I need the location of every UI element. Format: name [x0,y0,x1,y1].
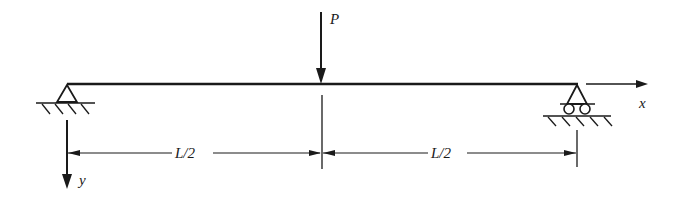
roller-support-icon [543,85,612,126]
beam-diagram: P x y L/2 L/2 [0,0,683,200]
dimension-label-left: L/2 [174,145,196,161]
pin-support-icon [36,85,95,114]
x-axis-label: x [638,95,646,111]
x-axis-arrow-icon [586,80,648,88]
y-axis-arrow-icon [62,120,72,189]
dimension-label-right: L/2 [430,145,452,161]
y-axis-label: y [77,172,86,188]
load-label: P [329,11,339,27]
load-arrow-icon [316,12,326,84]
